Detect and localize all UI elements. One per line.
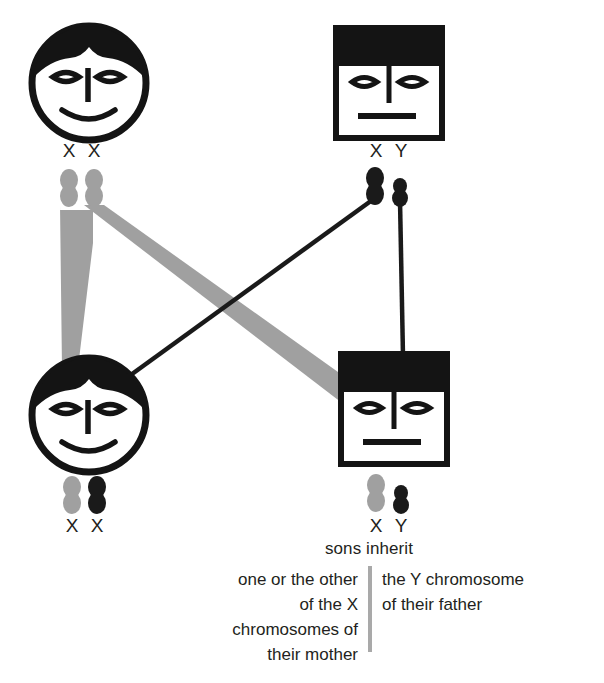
mother-chromosome-x-right [85,169,103,207]
father-hair-icon [336,28,442,66]
mother-chromosome-label-left: X [63,140,76,161]
father-chromosome-x [366,167,384,205]
son-chromosome-x-maternal [367,474,385,512]
father-chromosome-label-left: X [370,140,383,161]
son-hair-icon [341,354,447,392]
son-mouth-icon [363,439,421,445]
father-mouth-icon [358,113,416,119]
daughter-chromosome-x-paternal [88,476,106,514]
son-chromosome-label-left: X [370,515,383,536]
figure-son[interactable] [341,354,447,464]
father-chromosome-label-right: Y [395,140,408,161]
inheritance-diagram: X X X Y [0,0,604,683]
father-chromosome-y [392,178,408,207]
link-father-x-to-daughter [121,198,375,382]
daughter-chromosome-label-left: X [66,515,79,536]
link-mother-x-left-to-daughter [60,205,93,368]
son-chromosome-y-paternal [393,485,409,514]
mother-chromosome-label-right: X [88,140,101,161]
figure-mother[interactable] [32,26,146,140]
daughter-chromosome-x-maternal [63,476,81,514]
son-chromosome-label-right: Y [395,515,408,536]
daughter-chromosome-label-right: X [91,515,104,536]
pedigree-canvas: X X X Y [0,0,604,683]
figure-daughter[interactable] [32,358,146,472]
link-father-y-to-son [400,200,403,356]
figure-father[interactable] [336,28,442,138]
mother-chromosome-x-left [60,169,78,207]
